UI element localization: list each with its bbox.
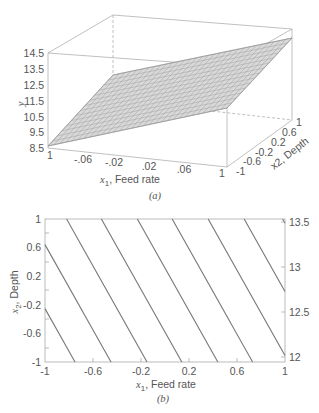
y-tick: -0.2 — [23, 299, 41, 311]
x-axis-ticks: -1 -0.6 -0.2 0.2 0.6 1 x1, Feed rate (b) — [40, 365, 288, 405]
contour-line — [172, 219, 252, 362]
x1-tick: .06 — [177, 163, 192, 175]
contour-line — [45, 309, 75, 362]
z-tick: 11.5 — [24, 95, 44, 107]
x-axis-label: x1, Feed rate — [135, 378, 196, 393]
contour-line — [45, 245, 111, 362]
z-tick: 8.5 — [29, 142, 44, 154]
x1-tick: .02 — [142, 160, 157, 172]
x1-tick: -.02 — [105, 156, 123, 168]
y-tick: 1 — [35, 213, 41, 225]
x1-axis-label: x1, Feed rate — [99, 173, 160, 188]
x1-tick: 1 — [219, 167, 225, 179]
caption-b: (b) — [157, 393, 170, 405]
x-tick: -0.6 — [84, 365, 102, 377]
x-tick: 1 — [282, 365, 288, 377]
x-tick: 0.6 — [230, 365, 245, 377]
contour-level-ticks: 13.5 13 12.5 12 — [289, 216, 310, 363]
z-tick: 10.5 — [24, 111, 45, 123]
level-tick: 13.5 — [289, 216, 310, 228]
level-tick: 12.5 — [289, 306, 310, 318]
x-tick: 0.2 — [182, 365, 197, 377]
contour-line — [67, 219, 147, 362]
level-tick: 13 — [289, 261, 301, 273]
contour-line — [137, 219, 217, 362]
y-tick: 0.6 — [26, 241, 41, 253]
panel-b-contour-plot: 1 0.6 0.2 -0.2 -0.6 -1 x2, Depth -1 -0.6… — [8, 213, 310, 405]
x2-tick: 1 — [296, 116, 302, 128]
contour-lines — [45, 219, 285, 362]
z-axis-label: y — [15, 101, 26, 107]
z-tick: 13.5 — [24, 63, 45, 75]
y-axis-ticks: 1 0.6 0.2 -0.2 -0.6 -1 x2, Depth — [8, 213, 41, 368]
x1-tick: 1 — [47, 149, 53, 161]
x1-tick: -.06 — [74, 153, 92, 165]
x-tick: -1 — [40, 365, 49, 377]
contour-line — [208, 219, 285, 356]
contour-line — [101, 219, 181, 362]
panel-a-surface-plot: 14.5 13.5 12.5 11.5 10.5 9.5 8.5 y 1 -.0… — [15, 15, 311, 202]
y-tick: 0.2 — [26, 270, 41, 282]
level-tick: 12 — [289, 351, 301, 363]
z-tick: 12.5 — [24, 79, 45, 91]
y-tick: -0.6 — [23, 327, 41, 339]
response-surface — [48, 38, 292, 146]
z-axis-ticks: 14.5 13.5 12.5 11.5 10.5 9.5 8.5 y — [15, 47, 44, 154]
z-tick: 14.5 — [24, 47, 45, 59]
y-axis-label: x2, Depth — [8, 270, 23, 314]
contour-line — [244, 219, 285, 292]
figure: 14.5 13.5 12.5 11.5 10.5 9.5 8.5 y 1 -.0… — [0, 0, 319, 413]
z-tick: 9.5 — [29, 126, 44, 138]
x2-axis-ticks: -1 -0.6 -0.2 0.2 0.6 1 x2, Depth — [236, 116, 311, 177]
x-tick: -0.2 — [132, 365, 150, 377]
x2-tick: 0.6 — [282, 126, 297, 138]
caption-a: (a) — [149, 190, 162, 202]
